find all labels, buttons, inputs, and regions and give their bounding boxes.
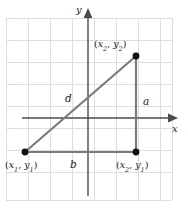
y-axis-label: y — [76, 5, 82, 15]
y-axis-arrowhead — [84, 8, 93, 18]
point-label-x2-y1: (x2, y1) — [116, 160, 148, 172]
axes — [22, 8, 178, 196]
point-label-x2-y2: (x2, y2) — [94, 39, 126, 51]
vertex-bottom-left-dot — [22, 149, 29, 156]
vertex-top-right-dot — [133, 53, 140, 60]
x-axis-label: x — [172, 124, 178, 134]
horizontal-leg-label: b — [70, 159, 77, 170]
hypotenuse-line — [25, 56, 136, 152]
vertex-bottom-right-dot — [133, 149, 140, 156]
point-label-x1-y1: (x1, y1) — [5, 160, 37, 172]
triangle — [25, 56, 136, 152]
geometry-layer — [0, 0, 188, 208]
vertical-leg-label: a — [143, 96, 149, 107]
hypotenuse-label: d — [65, 93, 72, 104]
x-axis-arrowhead — [168, 114, 178, 123]
distance-formula-figure: (x2, y2) (x1, y1) (x2, y1) d a b x y — [0, 0, 188, 208]
